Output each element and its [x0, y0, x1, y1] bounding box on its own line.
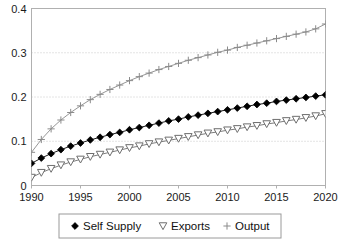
chart-legend: Self SupplyExportsOutput	[59, 214, 281, 238]
y-tick-label: 0.4	[11, 3, 26, 15]
x-tick-label: 2010	[215, 191, 239, 203]
x-tick-label: 2020	[313, 191, 337, 203]
x-tick-label: 2005	[166, 191, 190, 203]
y-tick-label: 0.1	[11, 135, 26, 147]
chart-background	[0, 0, 340, 248]
legend-label: Exports	[171, 220, 210, 232]
chart-container: 00.10.20.30.4 19901995200020052010201520…	[0, 0, 340, 248]
x-tick-label: 2000	[117, 191, 141, 203]
x-tick-label: 2015	[264, 191, 288, 203]
legend-label: Self Supply	[83, 220, 141, 232]
y-tick-label: 0.3	[11, 47, 26, 59]
legend-label: Output	[235, 220, 270, 232]
y-tick-label: 0.2	[11, 91, 26, 103]
x-tick-label: 1995	[68, 191, 92, 203]
x-tick-label: 1990	[19, 191, 43, 203]
line-chart: 00.10.20.30.4 19901995200020052010201520…	[0, 0, 340, 248]
